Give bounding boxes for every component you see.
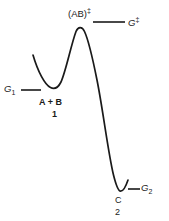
free-energy-curve bbox=[33, 28, 128, 192]
transition-state-superscript: ‡ bbox=[87, 7, 91, 14]
free-energy-diagram: (AB)‡ G‡ G1 G2 A + B 1 C 2 bbox=[0, 0, 169, 221]
product-species-label: C bbox=[115, 196, 122, 205]
product-energy-subscript: 2 bbox=[148, 188, 152, 195]
reactant-energy-label: G1 bbox=[4, 84, 15, 96]
reactant-energy-subscript: 1 bbox=[11, 89, 15, 96]
product-energy-label: G2 bbox=[141, 183, 152, 195]
reactant-state-index: 1 bbox=[52, 110, 57, 119]
transition-state-energy-label: G‡ bbox=[128, 16, 139, 28]
transition-state-energy-superscript: ‡ bbox=[135, 16, 139, 23]
product-state-index: 2 bbox=[115, 208, 120, 217]
transition-state-base: (AB) bbox=[68, 8, 87, 19]
reactant-species-label: A + B bbox=[39, 98, 62, 107]
transition-state-label: (AB)‡ bbox=[68, 7, 91, 19]
